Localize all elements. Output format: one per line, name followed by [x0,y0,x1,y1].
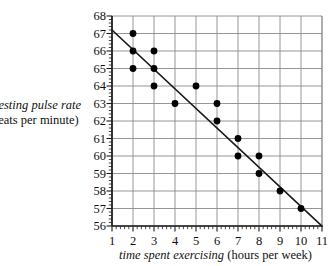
data-point [277,188,284,195]
y-tick-label: 61 [84,131,106,146]
data-point [235,135,242,142]
y-tick-label: 64 [84,79,106,94]
x-tick-label: 2 [122,234,144,249]
data-point [256,170,263,177]
x-tick-label: 7 [227,234,249,249]
y-tick-label: 68 [84,9,106,24]
data-point [235,153,242,160]
data-point [193,83,200,90]
data-point [214,118,221,125]
x-tick-label: 3 [143,234,165,249]
plot-area [112,16,322,226]
x-axis-label-italic-part: time spent exercising [119,248,224,262]
data-point [130,30,137,37]
data-point [214,100,221,107]
y-tick-label: 67 [84,26,106,41]
y-tick-label: 66 [84,44,106,59]
x-tick-label: 5 [185,234,207,249]
minor-tick-marks [107,16,323,232]
y-tick-label: 58 [84,184,106,199]
data-point [130,48,137,55]
x-tick-label: 6 [206,234,228,249]
x-tick-label: 8 [248,234,270,249]
x-tick-label: 9 [269,234,291,249]
x-tick-label: 11 [311,234,331,249]
x-tick-label: 4 [164,234,186,249]
x-tick-label: 10 [290,234,312,249]
y-axis-label-line-2: beats per minute) [0,113,98,128]
y-tick-label: 59 [84,166,106,181]
data-point [298,205,305,212]
y-tick-label: 56 [84,219,106,234]
data-point [130,65,137,72]
y-tick-label: 65 [84,61,106,76]
scatter-plot-figure: resting pulse rate beats per minute) 565… [0,0,331,266]
data-point [151,65,158,72]
x-axis-label-roman-part: (hours per week) [224,248,312,262]
plot-svg [112,16,322,226]
data-point [172,100,179,107]
data-point [256,153,263,160]
y-tick-label: 57 [84,201,106,216]
x-tick-label: 1 [101,234,123,249]
data-point [151,48,158,55]
y-axis-label-line-1: resting pulse rate [0,98,98,113]
x-axis-label: time spent exercising (hours per week) [100,248,331,263]
y-axis-label: resting pulse rate beats per minute) [0,98,98,128]
data-point [151,83,158,90]
y-tick-label: 60 [84,149,106,164]
